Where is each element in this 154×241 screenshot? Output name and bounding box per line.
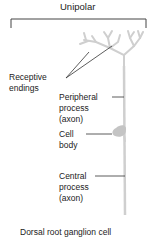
label-cell-body-2: body [59,140,77,150]
cell-body-shape [112,125,126,142]
label-cell-body-1: Cell [59,129,74,139]
label-receptive-endings-1: Receptive [9,72,47,82]
label-receptive-endings-2: endings [9,83,39,93]
label-central-process-3: (axon) [59,193,83,203]
diagram-title: Unipolar [60,2,95,12]
diagram-caption: Dorsal root ganglion cell [20,227,111,237]
label-peripheral-process-3: (axon) [59,114,83,124]
label-peripheral-process-2: process [59,103,89,113]
label-central-process-1: Central [59,171,86,181]
label-central-process-2: process [59,182,89,192]
dendritic-tree [80,31,143,66]
label-peripheral-process-1: Peripheral [59,92,98,102]
bracket [11,19,146,28]
